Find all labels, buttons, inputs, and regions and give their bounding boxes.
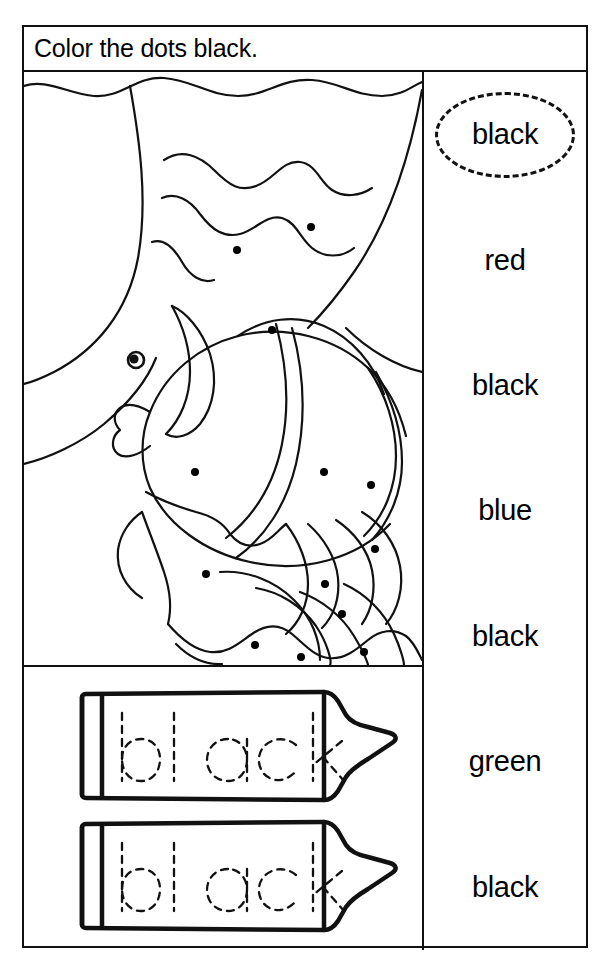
color-word-label: red	[484, 244, 525, 277]
word-list-item-3[interactable]: black	[424, 323, 586, 448]
coloring-picture-panel[interactable]	[24, 72, 422, 667]
worksheet-body: black red black blue black green black	[24, 72, 586, 950]
word-list-item-1[interactable]: black	[424, 72, 586, 197]
fish-illustration	[24, 72, 422, 665]
word-list-item-4[interactable]: blue	[424, 448, 586, 573]
word-list-item-7[interactable]: black	[424, 825, 586, 950]
trace-word-1	[122, 713, 344, 781]
page-title: Color the dots black.	[24, 34, 258, 63]
color-word-label: black	[472, 871, 538, 904]
crayon-outline-2	[82, 822, 396, 930]
color-word-label: blue	[478, 494, 532, 527]
left-column	[24, 72, 424, 950]
crayon-outline-1	[82, 692, 396, 800]
word-list-item-5[interactable]: black	[424, 574, 586, 699]
color-word-label: black	[472, 620, 538, 653]
color-word-label: green	[469, 745, 542, 778]
crayon-tracing-panel[interactable]	[24, 667, 422, 950]
color-word-label: black	[472, 369, 538, 402]
word-list-item-6[interactable]: green	[424, 699, 586, 824]
worksheet-frame: Color the dots black.	[22, 25, 588, 948]
color-word-label: black	[472, 118, 538, 151]
color-word-list: black red black blue black green black	[424, 72, 586, 950]
trace-word-2	[122, 843, 344, 911]
title-bar: Color the dots black.	[24, 27, 586, 72]
word-list-item-2[interactable]: red	[424, 197, 586, 322]
